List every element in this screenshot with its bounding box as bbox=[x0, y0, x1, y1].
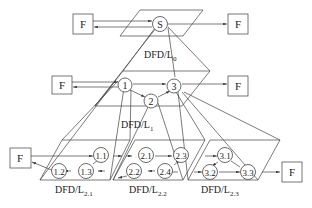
svg-text:3.2: 3.2 bbox=[204, 168, 215, 178]
svg-text:3.1: 3.1 bbox=[219, 151, 230, 161]
process-2-4: 2.4 bbox=[158, 164, 173, 179]
svg-text:F: F bbox=[289, 166, 295, 178]
svg-text:3.3: 3.3 bbox=[242, 168, 254, 178]
svg-text:F: F bbox=[235, 80, 241, 92]
svg-text:1.2: 1.2 bbox=[53, 167, 64, 177]
external-entity-bottom-right: F bbox=[282, 162, 302, 182]
svg-text:1.1: 1.1 bbox=[95, 151, 106, 161]
svg-text:DFD/L2.2: DFD/L2.2 bbox=[129, 184, 167, 198]
svg-text:F: F bbox=[80, 18, 86, 30]
external-entity-mid-right: F bbox=[228, 76, 248, 96]
svg-text:F: F bbox=[59, 79, 65, 91]
label-level1: DFD/L1 bbox=[121, 119, 154, 133]
svg-text:2.4: 2.4 bbox=[159, 167, 171, 177]
process-3: 3 bbox=[167, 79, 181, 93]
svg-text:DFD/L1: DFD/L1 bbox=[121, 119, 154, 133]
external-entity-top-left: F bbox=[73, 14, 93, 34]
process-1-3: 1.3 bbox=[79, 164, 94, 179]
svg-text:S: S bbox=[157, 19, 163, 30]
svg-text:F: F bbox=[235, 18, 241, 30]
process-1: 1 bbox=[118, 78, 132, 92]
process-3-1: 3.1 bbox=[218, 148, 233, 163]
svg-text:3: 3 bbox=[172, 81, 177, 92]
process-2-1: 2.1 bbox=[139, 148, 154, 163]
process-1-2: 1.2 bbox=[52, 164, 67, 179]
external-entity-top-right: F bbox=[228, 14, 248, 34]
process-2-2: 2.2 bbox=[127, 164, 142, 179]
svg-text:2.3: 2.3 bbox=[175, 151, 187, 161]
svg-text:DFD/L0: DFD/L0 bbox=[144, 49, 177, 63]
process-2-3: 2.3 bbox=[174, 148, 189, 163]
label-level2-3: DFD/L2.3 bbox=[201, 184, 239, 198]
svg-text:2.1: 2.1 bbox=[140, 151, 151, 161]
svg-text:2: 2 bbox=[149, 96, 154, 107]
external-entity-bottom-left: F bbox=[10, 148, 31, 168]
svg-text:DFD/L2.3: DFD/L2.3 bbox=[201, 184, 239, 198]
process-3-2: 3.2 bbox=[203, 165, 218, 180]
svg-text:2.2: 2.2 bbox=[128, 167, 139, 177]
svg-text:1: 1 bbox=[123, 80, 128, 91]
label-level2-2: DFD/L2.2 bbox=[129, 184, 167, 198]
label-level0: DFD/L0 bbox=[144, 49, 177, 63]
process-2: 2 bbox=[144, 94, 158, 108]
svg-text:F: F bbox=[17, 152, 23, 164]
external-entity-mid-left: F bbox=[52, 76, 72, 94]
svg-text:1.3: 1.3 bbox=[80, 167, 92, 177]
process-1-1: 1.1 bbox=[94, 148, 109, 163]
process-3-3: 3.3 bbox=[241, 165, 256, 180]
label-level2-1: DFD/L2.1 bbox=[55, 184, 93, 198]
dfd-diagram: F F F F F F bbox=[0, 0, 312, 208]
process-S: S bbox=[153, 17, 168, 32]
svg-text:DFD/L2.1: DFD/L2.1 bbox=[55, 184, 93, 198]
